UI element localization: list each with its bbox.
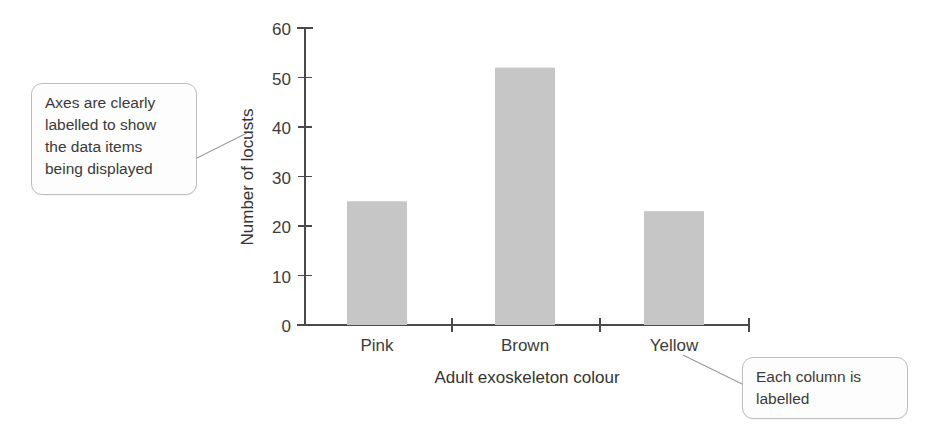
x-axis-category-labels: Pink Brown Yellow: [360, 336, 699, 355]
figure-bar-chart-with-annotations: 60 50 40 30 20 10 0 Pink: [0, 0, 930, 433]
y-tick-label-40: 40: [272, 119, 291, 138]
annotation-column-line-1: Each column is: [756, 366, 895, 388]
annotation-callout-axes: Axes are clearly labelled to show the da…: [31, 83, 197, 195]
category-label-brown: Brown: [501, 336, 549, 355]
y-axis-title: Number of locusts: [238, 109, 257, 246]
y-axis-tick-labels: 60 50 40 30 20 10 0: [272, 20, 291, 336]
y-tick-label-10: 10: [272, 268, 291, 287]
y-tick-label-50: 50: [272, 70, 291, 89]
annotation-axes-line-2: labelled to show: [45, 114, 184, 136]
annotation-axes-line-4: being displayed: [45, 158, 184, 180]
x-axis-title: Adult exoskeleton colour: [434, 368, 620, 387]
bar-brown: [495, 68, 555, 325]
y-tick-label-30: 30: [272, 169, 291, 188]
annotation-callout-column: Each column is labelled: [742, 357, 908, 419]
annotation-axes-line-1: Axes are clearly: [45, 92, 184, 114]
annotation-axes-line-3: the data items: [45, 136, 184, 158]
y-tick-label-60: 60: [272, 20, 291, 39]
bar-yellow: [644, 211, 704, 325]
bar-series-number-of-locusts: [347, 68, 704, 325]
y-tick-label-0: 0: [282, 317, 291, 336]
y-tick-label-20: 20: [272, 218, 291, 237]
category-label-pink: Pink: [360, 336, 394, 355]
category-label-yellow: Yellow: [650, 336, 699, 355]
annotation-column-line-2: labelled: [756, 388, 895, 410]
bar-pink: [347, 201, 407, 325]
